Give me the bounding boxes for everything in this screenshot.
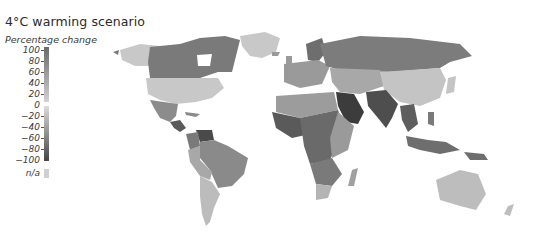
region-iceland (272, 52, 280, 56)
region-cuba (185, 112, 200, 117)
region-australia (436, 170, 486, 210)
region-hudson-bay (197, 54, 212, 66)
region-indonesia (406, 136, 460, 154)
world-map (0, 0, 533, 237)
region-russia (320, 36, 472, 72)
region-aleutian (113, 50, 119, 55)
region-central-asia (330, 68, 384, 94)
region-southeast-asia (400, 104, 418, 132)
region-central-america (170, 120, 186, 132)
region-philippines (428, 112, 434, 126)
region-madagascar (348, 168, 358, 186)
region-south-africa (316, 184, 332, 200)
region-uk (286, 56, 292, 66)
region-usa (146, 78, 224, 104)
region-new-guinea (464, 152, 488, 160)
region-new-zealand (504, 204, 514, 216)
region-canada (148, 36, 240, 78)
region-japan (446, 76, 456, 94)
